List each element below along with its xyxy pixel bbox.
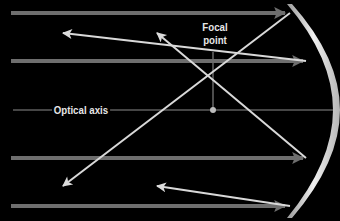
reflected-ray-from-top xyxy=(63,13,290,186)
concave-mirror-diagram xyxy=(0,0,340,221)
reflected-ray-from-bottom xyxy=(157,186,290,206)
focal-point-label-line2: point xyxy=(202,34,228,47)
optical-axis-label: Optical axis xyxy=(52,104,110,117)
focal-point-marker xyxy=(210,107,216,113)
focal-point-label: Focal point xyxy=(202,21,228,47)
focal-point-label-line1: Focal xyxy=(202,21,228,34)
concave-mirror xyxy=(287,4,340,218)
